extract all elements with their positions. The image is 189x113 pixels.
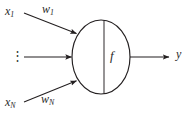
neuron-body-ellipse [72,20,130,94]
output-label-y: y [176,48,181,60]
input-label-xn: xN [5,96,16,110]
artificial-neuron-diagram: x1 w1 ⋮ xN wN f y [0,0,189,113]
weight-label-w1: w1 [42,3,54,17]
weight-label-wn: wN [41,93,54,107]
weight-label-wn-subscript: N [49,98,54,107]
weight-label-w1-subscript: 1 [50,8,54,17]
diagram-canvas [0,0,189,113]
vertical-ellipsis: ⋮ [11,49,24,62]
input-label-x1: x1 [5,5,14,19]
activation-function-label: f [110,49,114,62]
input-label-x1-subscript: 1 [10,10,14,19]
input-label-xn-subscript: N [10,101,15,110]
